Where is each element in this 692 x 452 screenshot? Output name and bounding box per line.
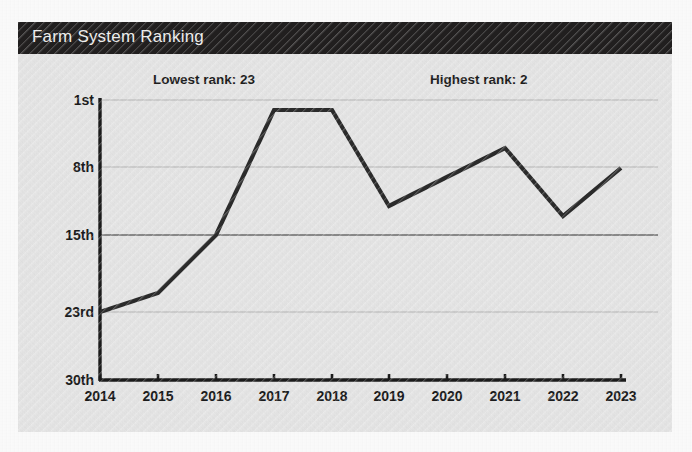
line-chart-plot-area: 2014 2015 2016 2017 2018 2019 2020 2021 … bbox=[18, 22, 672, 432]
x-tick-2020: 2020 bbox=[431, 388, 462, 404]
chart-svg bbox=[18, 22, 672, 432]
x-tick-2015: 2015 bbox=[142, 388, 173, 404]
rank-series-line bbox=[100, 110, 621, 312]
x-tick-2022: 2022 bbox=[547, 388, 578, 404]
x-tick-2021: 2021 bbox=[489, 388, 520, 404]
x-tick-2019: 2019 bbox=[373, 388, 404, 404]
x-tick-2018: 2018 bbox=[316, 388, 347, 404]
x-tick-2014: 2014 bbox=[84, 388, 115, 404]
x-tick-2016: 2016 bbox=[200, 388, 231, 404]
x-tick-2017: 2017 bbox=[258, 388, 289, 404]
chart-card: Farm System Ranking Lowest rank: 23 High… bbox=[18, 22, 672, 432]
x-tick-2023: 2023 bbox=[605, 388, 636, 404]
